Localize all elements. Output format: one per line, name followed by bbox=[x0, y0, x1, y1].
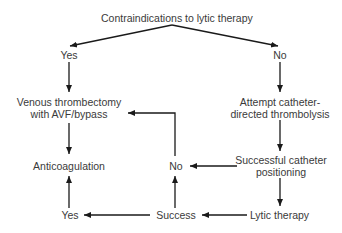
anticoagulation-node: Anticoagulation bbox=[24, 160, 114, 172]
attempt-line2: directed thrombolysis bbox=[225, 108, 335, 120]
lytic-therapy-node: Lytic therapy bbox=[247, 209, 312, 221]
catheter-positioning-node: Successful catheter positioning bbox=[229, 154, 333, 178]
venous-line2: with AVF/bypass bbox=[14, 108, 124, 120]
no-top-node: No bbox=[267, 49, 293, 61]
yes-bottom-node: Yes bbox=[56, 209, 84, 221]
yes-top-node: Yes bbox=[54, 49, 84, 61]
title-node: Contraindications to lytic therapy bbox=[101, 12, 251, 24]
venous-thrombectomy-node: Venous thrombectomy with AVF/bypass bbox=[14, 96, 124, 120]
venous-line1: Venous thrombectomy bbox=[14, 96, 124, 108]
positioning-line1: Successful catheter bbox=[229, 154, 333, 166]
flowchart: Contraindications to lytic therapy Yes N… bbox=[0, 0, 342, 233]
success-node: Success bbox=[151, 209, 201, 221]
no-mid-node: No bbox=[163, 160, 189, 172]
positioning-line2: positioning bbox=[229, 166, 333, 178]
attempt-thrombolysis-node: Attempt catheter- directed thrombolysis bbox=[225, 96, 335, 120]
attempt-line1: Attempt catheter- bbox=[225, 96, 335, 108]
